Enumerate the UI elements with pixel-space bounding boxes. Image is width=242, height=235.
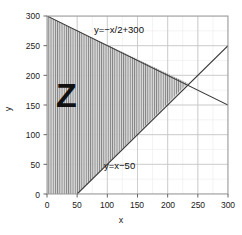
lower-boundary-equation-label: y=x−50 [104,160,135,171]
upper-boundary-equation-label: y=−x/2+300 [94,24,144,35]
x-tick-label: 250 [185,200,211,210]
y-axis-label: y [3,97,13,121]
region-label-z: Z [56,78,77,112]
y-tick-label: 200 [14,71,40,81]
y-tick-label: 150 [14,101,40,111]
x-tick-label: 50 [64,200,90,210]
y-tick-label: 50 [14,160,40,170]
x-tick-label: 0 [34,200,60,210]
y-tick-label: 250 [14,41,40,51]
y-tick-label: 100 [14,130,40,140]
x-axis-label: x [0,215,242,225]
x-tick-label: 150 [124,200,150,210]
y-tick-label: 300 [14,11,40,21]
x-tick-label: 100 [94,200,120,210]
x-tick-label: 200 [155,200,181,210]
x-tick-label: 300 [215,200,241,210]
y-tick-label: 0 [14,190,40,200]
